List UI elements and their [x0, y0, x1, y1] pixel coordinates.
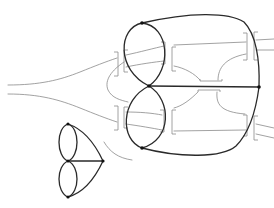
ribbon-band	[126, 124, 162, 130]
ribbon-band	[174, 130, 246, 131]
ribbon-band	[126, 112, 162, 115]
ribbon-bracket	[254, 116, 258, 140]
ribbon-bracket	[172, 110, 176, 134]
funnel-upper-edge	[8, 58, 117, 85]
small-node-top	[66, 122, 69, 125]
graph-edge-top-loop-right	[142, 23, 165, 86]
diagram-canvas	[0, 0, 274, 208]
ribbon-band	[174, 42, 246, 45]
ribbon-band	[256, 124, 274, 128]
graph-edge-top-right	[142, 15, 259, 87]
ribbon-band	[218, 54, 246, 80]
ribbon-band	[174, 66, 200, 80]
ribbon-band	[126, 61, 164, 67]
funnel-upper-bracket	[114, 52, 118, 76]
ribbon-bracket	[172, 47, 176, 71]
ribbon-bracket	[243, 33, 247, 60]
small-edge-lower-loop-left	[59, 161, 68, 197]
small-node-middle	[66, 159, 69, 162]
small-node-right	[101, 159, 104, 162]
funnel-lower-bracket	[114, 106, 118, 130]
graph-edge-bottom-loop-left	[126, 86, 149, 148]
graph-edge-bottom-loop-right	[142, 86, 165, 148]
small-graph	[59, 122, 105, 198]
small-edge-upper-loop-right	[68, 124, 77, 161]
small-edge-upper-loop-left	[59, 124, 68, 161]
ribbon-band	[126, 46, 164, 55]
diagram-svg	[0, 0, 274, 208]
large-graph	[124, 15, 261, 156]
small-edge-lower-loop-right	[68, 161, 77, 197]
funnel-lower-edge	[8, 94, 117, 122]
graph-node-right	[257, 85, 261, 89]
ribbon-band	[256, 39, 274, 40]
graph-node-top	[140, 21, 144, 25]
ribbon-lower	[104, 90, 274, 160]
funnel-inner-curve	[107, 62, 128, 102]
ribbon-upper	[124, 32, 274, 81]
left-funnel	[8, 52, 128, 130]
ribbon-band	[217, 92, 245, 114]
graph-edge-center-right	[149, 86, 259, 87]
ribbon-band	[104, 142, 132, 160]
ribbon-band	[256, 134, 274, 138]
small-node-bottom	[66, 195, 69, 198]
graph-node-bottom	[140, 146, 144, 150]
ribbon-band	[174, 92, 198, 108]
ribbon-bracket	[200, 79, 222, 81]
graph-node-center	[147, 84, 151, 88]
ribbon-bracket	[198, 90, 220, 92]
